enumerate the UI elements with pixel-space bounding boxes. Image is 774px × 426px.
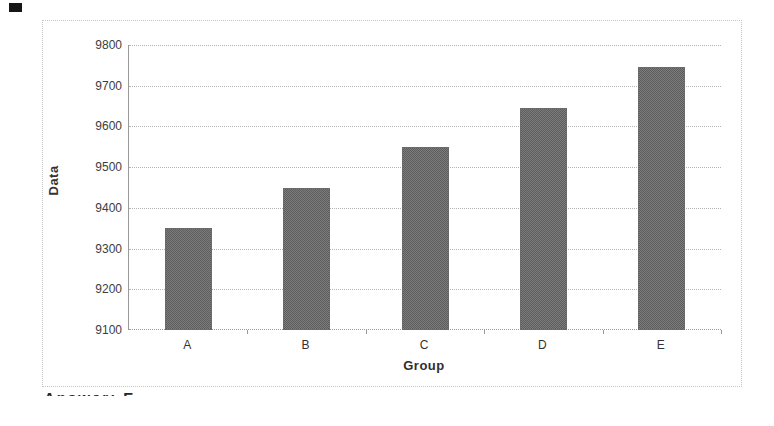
y-tick-9300: 9300 bbox=[80, 242, 122, 256]
y-axis-label: Data bbox=[46, 165, 61, 195]
y-tick-9700: 9700 bbox=[80, 79, 122, 93]
gridline-9800 bbox=[129, 45, 721, 46]
category-boundary-tick bbox=[247, 330, 248, 334]
x-axis-label: Group bbox=[128, 358, 720, 373]
answer-text: Answer: E bbox=[44, 389, 135, 396]
bar-A bbox=[165, 228, 212, 330]
category-boundary-tick bbox=[366, 330, 367, 334]
bar-D bbox=[520, 108, 567, 330]
bar-E bbox=[638, 67, 685, 330]
x-tick-B: B bbox=[276, 338, 336, 352]
y-tick-9600: 9600 bbox=[80, 119, 122, 133]
y-tick-9500: 9500 bbox=[80, 160, 122, 174]
x-tick-D: D bbox=[512, 338, 572, 352]
y-tick-9200: 9200 bbox=[80, 282, 122, 296]
category-boundary-tick bbox=[721, 330, 722, 334]
x-tick-C: C bbox=[394, 338, 454, 352]
y-tick-9100: 9100 bbox=[80, 323, 122, 337]
category-boundary-tick bbox=[603, 330, 604, 334]
gridline-9600 bbox=[129, 126, 721, 127]
bar-C bbox=[402, 147, 449, 330]
plot-area bbox=[128, 45, 721, 330]
y-tick-9800: 9800 bbox=[80, 38, 122, 52]
x-tick-E: E bbox=[631, 338, 691, 352]
bar-B bbox=[283, 188, 330, 331]
category-boundary-tick bbox=[484, 330, 485, 334]
x-tick-A: A bbox=[157, 338, 217, 352]
y-tick-9400: 9400 bbox=[80, 201, 122, 215]
gridline-9700 bbox=[129, 86, 721, 87]
answer-line-clipped: Answer: E bbox=[44, 389, 344, 396]
scan-artifact-mark bbox=[9, 3, 22, 12]
